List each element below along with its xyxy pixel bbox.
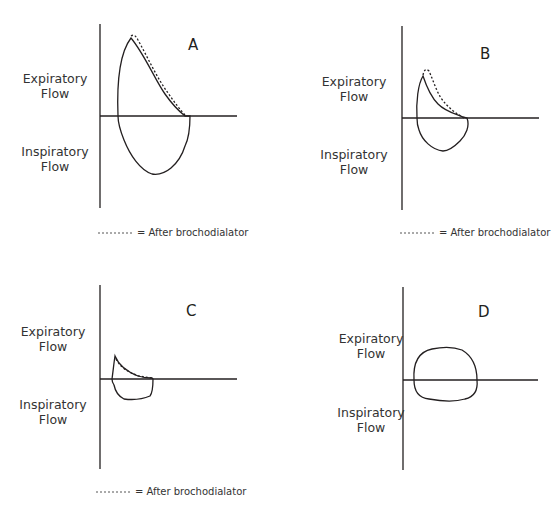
dashed-line-icon: [98, 231, 133, 235]
legend-text: = After brochodialator: [439, 227, 550, 238]
panel-a-loop: [118, 38, 190, 174]
panel-b-label: B: [480, 45, 490, 63]
expiratory-word: Expiratory: [309, 74, 399, 89]
panel-a-post-bronchodilator: [131, 35, 186, 116]
inspiratory-word: Inspiratory: [10, 144, 100, 159]
inspiratory-word: Inspiratory: [326, 405, 416, 420]
flow-word: Flow: [309, 89, 399, 104]
panel-d-inspiratory-label: Inspiratory Flow: [326, 405, 416, 435]
panel-c-legend: = After brochodialator: [96, 486, 246, 497]
panel-d-label: D: [478, 303, 490, 321]
panel-d-expiratory-label: Expiratory Flow: [326, 331, 416, 361]
panel-b-legend: = After brochodialator: [400, 227, 550, 238]
dashed-line-icon: [400, 231, 435, 235]
legend-text: = After brochodialator: [137, 227, 248, 238]
flow-word: Flow: [326, 420, 416, 435]
panel-b-post-bronchodilator: [423, 70, 464, 118]
panel-a-graph: [100, 24, 237, 208]
flow-word: Flow: [10, 86, 100, 101]
panel-c-expiratory-label: Expiratory Flow: [8, 324, 98, 354]
panel-a-expiratory-label: Expiratory Flow: [10, 71, 100, 101]
inspiratory-word: Inspiratory: [309, 147, 399, 162]
flow-word: Flow: [8, 339, 98, 354]
expiratory-word: Expiratory: [10, 71, 100, 86]
panel-c-graph: [100, 285, 237, 469]
flow-word: Flow: [8, 412, 98, 427]
inspiratory-word: Inspiratory: [8, 397, 98, 412]
expiratory-word: Expiratory: [326, 331, 416, 346]
flow-word: Flow: [10, 159, 100, 174]
panel-a-legend: = After brochodialator: [98, 227, 248, 238]
panel-c-label: C: [186, 302, 196, 320]
panel-a-inspiratory-label: Inspiratory Flow: [10, 144, 100, 174]
panel-a-label: A: [188, 36, 198, 54]
panel-d-loop: [414, 348, 477, 401]
legend-text: = After brochodialator: [135, 486, 246, 497]
dashed-line-icon: [96, 490, 131, 494]
expiratory-word: Expiratory: [8, 324, 98, 339]
panel-b-graph: [402, 26, 539, 210]
panel-b-expiratory-label: Expiratory Flow: [309, 74, 399, 104]
flow-word: Flow: [326, 346, 416, 361]
flow-word: Flow: [309, 162, 399, 177]
panel-b-loop: [417, 76, 468, 151]
panel-d-graph: [403, 287, 538, 470]
panel-c-inspiratory-label: Inspiratory Flow: [8, 397, 98, 427]
panel-b-inspiratory-label: Inspiratory Flow: [309, 147, 399, 177]
